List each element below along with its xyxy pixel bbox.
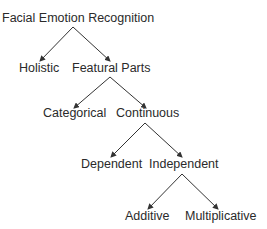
edge-continuous-dependent <box>111 123 145 157</box>
edge-independent-multiplicative <box>182 174 218 209</box>
node-categorical: Categorical <box>43 106 106 120</box>
node-multiplicative: Multiplicative <box>185 209 257 223</box>
node-root: Facial Emotion Recognition <box>2 11 154 25</box>
edge-continuous-independent <box>145 123 182 157</box>
edge-featural-categorical <box>74 77 110 108</box>
edge-featural-continuous <box>110 77 146 108</box>
edge-independent-additive <box>148 174 182 209</box>
emotion-recognition-tree: Facial Emotion Recognition Holistic Feat… <box>0 0 267 229</box>
node-additive: Additive <box>125 209 169 223</box>
node-dependent: Dependent <box>81 157 142 171</box>
node-independent: Independent <box>149 157 219 171</box>
node-featural-parts: Featural Parts <box>72 61 151 75</box>
edge-root-featural <box>73 27 110 61</box>
node-holistic: Holistic <box>19 61 59 75</box>
node-continuous: Continuous <box>116 106 179 120</box>
edge-root-holistic <box>40 27 73 61</box>
